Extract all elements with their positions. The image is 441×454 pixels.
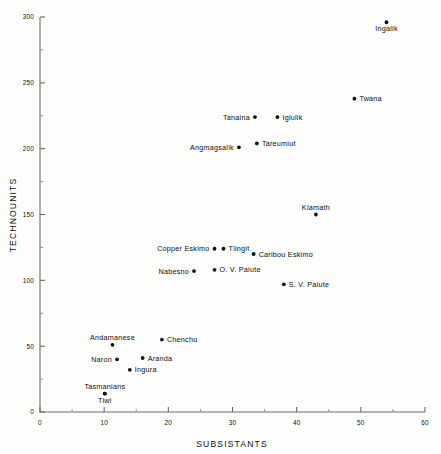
data-point-label: Ingalik: [375, 24, 398, 33]
data-point-label: Naron: [91, 355, 112, 364]
data-point: [115, 357, 119, 361]
data-point-label: Tareumiut: [262, 139, 296, 148]
data-point: [276, 115, 280, 119]
data-point-label: O. V. Paiute: [220, 265, 261, 274]
y-tick-label: 200: [23, 145, 35, 152]
data-point-label: S. V. Paiute: [289, 280, 329, 289]
plot-canvas: 0102030405060050100150200250300 IngalikT…: [0, 0, 441, 454]
y-tick-label: 300: [23, 13, 35, 20]
data-point: [353, 97, 357, 101]
y-tick-label: 250: [23, 79, 35, 86]
x-tick-label: 50: [357, 419, 365, 426]
data-point: [222, 247, 226, 251]
data-point-label: Ingura: [135, 365, 157, 374]
data-point: [237, 145, 241, 149]
data-point: [282, 282, 286, 286]
y-axis-title: TECHNOUNITS: [8, 178, 18, 253]
data-point-labels: IngalikTwanaTanainaIglulikAngmagsalikTar…: [84, 24, 398, 404]
x-tick-label: 40: [293, 419, 301, 426]
scatter-plot-figure: 0102030405060050100150200250300 IngalikT…: [0, 0, 441, 454]
data-point-label: Aranda: [148, 354, 173, 363]
data-point-label: Tanaina: [223, 113, 250, 122]
data-point: [111, 343, 115, 347]
data-point-label: Nabesno: [158, 267, 189, 276]
y-tick-label: 0: [30, 408, 34, 415]
data-point: [128, 368, 132, 372]
y-tick-label: 100: [23, 277, 35, 284]
data-points: [103, 20, 388, 395]
axis-ticks: [40, 17, 425, 412]
x-tick-label: 0: [38, 419, 42, 426]
data-point-label: Angmagsalik: [190, 143, 234, 152]
data-point: [192, 269, 196, 273]
data-point-label: Chenchu: [167, 335, 198, 344]
data-point-label: Twana: [359, 94, 381, 103]
data-point-label: Tasmanians: [84, 382, 125, 391]
data-point-label: Iglulik: [282, 113, 302, 122]
data-point: [213, 268, 217, 272]
data-point: [213, 247, 217, 251]
data-point-label: Caribou Eskimo: [259, 250, 313, 259]
y-tick-label: 150: [23, 211, 35, 218]
y-tick-label: 50: [26, 343, 34, 350]
data-point: [160, 338, 164, 342]
data-point: [253, 115, 257, 119]
x-tick-label: 30: [229, 419, 237, 426]
axes: [40, 17, 425, 412]
axis-lines: [40, 17, 425, 412]
data-point: [252, 252, 256, 256]
x-tick-label: 10: [100, 419, 108, 426]
data-point: [141, 356, 145, 360]
data-point-label: Andamanese: [90, 333, 135, 342]
data-point: [314, 213, 318, 217]
x-tick-label: 60: [421, 419, 429, 426]
data-point-label: Tlingit: [229, 244, 250, 253]
x-tick-label: 20: [165, 419, 173, 426]
axis-tick-labels: 0102030405060050100150200250300: [23, 13, 429, 426]
data-point-label: Tiwi: [98, 396, 112, 405]
x-axis-title: SUBSISTANTS: [196, 439, 268, 449]
data-point-label: Klamath: [302, 203, 330, 212]
data-point-label: Copper Eskimo: [157, 244, 209, 253]
data-point: [255, 142, 259, 146]
